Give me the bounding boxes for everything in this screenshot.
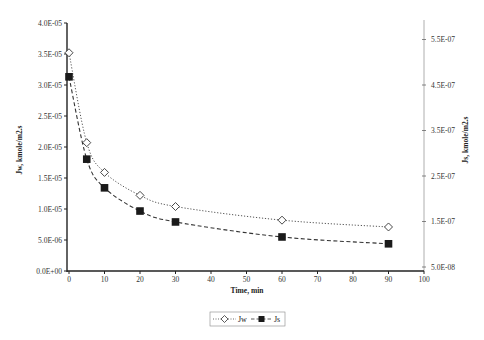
right-tick-label: 1.5E-07 <box>431 217 455 226</box>
left-tick-label: 3.0E-05 <box>38 81 62 90</box>
left-tick-label: 3.5E-05 <box>38 50 62 59</box>
x-tick-label: 70 <box>314 275 322 284</box>
left-tick-label: 0.0E+00 <box>36 267 62 276</box>
left-tick-label: 4.0E-05 <box>38 19 62 28</box>
square-marker-icon <box>385 240 393 248</box>
x-tick-label: 30 <box>172 275 180 284</box>
left-y-axis: 0.0E+005.0E-061.0E-051.5E-052.0E-052.5E-… <box>36 19 67 276</box>
series-line <box>69 77 389 244</box>
x-tick-label: 60 <box>278 275 286 284</box>
diamond-marker-icon <box>385 223 393 231</box>
square-marker-icon <box>83 155 91 163</box>
plot-area <box>65 49 393 248</box>
x-tick-label: 90 <box>385 275 393 284</box>
diamond-marker-icon <box>172 203 180 211</box>
series-line <box>69 53 389 227</box>
left-y-axis-title: Jw, kmole/m2.s <box>15 125 24 174</box>
legend: Jw Js <box>210 312 285 326</box>
right-y-axis: 5.0E-081.5E-072.5E-073.5E-074.5E-075.5E-… <box>422 20 455 272</box>
diamond-marker-icon <box>83 139 91 147</box>
square-marker-icon <box>65 73 73 81</box>
series-jw <box>65 49 393 231</box>
right-tick-label: 5.0E-08 <box>431 263 455 272</box>
right-y-axis-title: Js, kmole/m2.s <box>461 116 470 163</box>
right-tick-label: 5.5E-07 <box>431 35 455 44</box>
x-tick-label: 0 <box>67 275 71 284</box>
x-axis: 0102030405060708090100 <box>67 271 430 284</box>
square-marker-icon <box>136 207 144 215</box>
x-tick-label: 20 <box>136 275 144 284</box>
x-tick-label: 50 <box>243 275 251 284</box>
square-marker-icon <box>101 184 109 192</box>
legend-label-js: Js <box>274 315 280 324</box>
left-tick-label: 1.5E-05 <box>38 174 62 183</box>
x-axis-title: Time, min <box>231 286 265 295</box>
right-tick-label: 3.5E-07 <box>431 126 455 135</box>
square-marker-icon <box>172 218 180 226</box>
diamond-marker-icon <box>278 216 286 224</box>
square-marker-icon <box>278 233 286 241</box>
x-tick-label: 40 <box>207 275 215 284</box>
legend-label-jw: Jw <box>238 315 247 324</box>
left-tick-label: 2.0E-05 <box>38 143 62 152</box>
diamond-marker-icon <box>136 191 144 199</box>
left-tick-label: 2.5E-05 <box>38 112 62 121</box>
x-tick-label: 10 <box>101 275 109 284</box>
chart: 0.0E+005.0E-061.0E-051.5E-052.0E-052.5E-… <box>0 0 484 340</box>
x-tick-label: 100 <box>418 275 430 284</box>
square-marker-icon <box>259 316 265 322</box>
x-tick-label: 80 <box>349 275 357 284</box>
right-tick-label: 2.5E-07 <box>431 172 455 181</box>
series-js <box>65 73 392 248</box>
diamond-marker-icon <box>65 49 73 57</box>
left-tick-label: 1.0E-05 <box>38 205 62 214</box>
left-tick-label: 5.0E-06 <box>38 236 62 245</box>
right-tick-label: 4.5E-07 <box>431 81 455 90</box>
